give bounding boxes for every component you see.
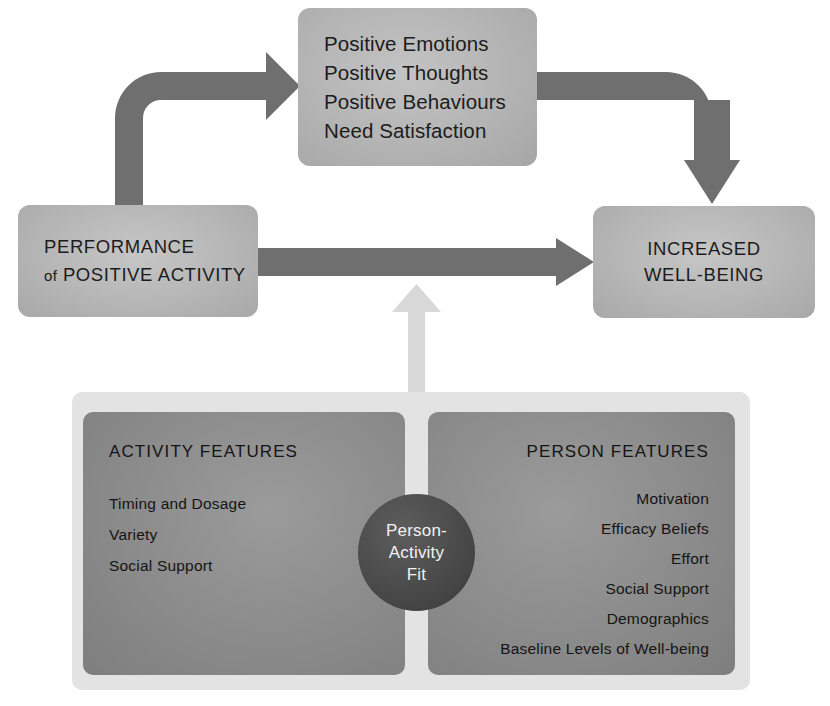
panel-activity-features: ACTIVITY FEATURES Timing and Dosage Vari…	[83, 412, 405, 675]
performance-line-1: PERFORMANCE	[44, 233, 195, 261]
positive-outcome-line: Positive Thoughts	[324, 58, 488, 87]
person-feature-item: Efficacy Beliefs	[454, 514, 709, 544]
arrow-fit-to-path-icon	[392, 284, 441, 400]
fit-line-3: Fit	[407, 564, 426, 586]
activity-feature-item: Timing and Dosage	[109, 488, 379, 519]
person-feature-item: Effort	[454, 544, 709, 574]
person-feature-item: Motivation	[454, 484, 709, 514]
activity-feature-item: Variety	[109, 519, 379, 550]
person-feature-item: Baseline Levels of Well-being	[454, 634, 709, 664]
panel-person-title: PERSON FEATURES	[454, 442, 709, 462]
node-person-activity-fit: Person- Activity Fit	[358, 494, 475, 611]
positive-outcome-line: Need Satisfaction	[324, 116, 486, 145]
performance-line-2-prefix: of	[44, 267, 57, 284]
activity-feature-item: Social Support	[109, 550, 379, 581]
panel-activity-title: ACTIVITY FEATURES	[109, 442, 379, 462]
node-performance: PERFORMANCE of POSITIVE ACTIVITY	[18, 205, 258, 317]
diagram-canvas: Positive Emotions Positive Thoughts Posi…	[0, 0, 830, 706]
node-increased-wellbeing: INCREASED WELL-BEING	[593, 206, 815, 318]
arrow-outcomes-to-wellbeing-head-icon	[684, 100, 740, 204]
arrow-outcomes-to-wellbeing-icon	[535, 72, 734, 203]
fit-line-1: Person-	[386, 520, 447, 542]
wellbeing-line-2: WELL-BEING	[644, 262, 764, 288]
performance-line-2: of POSITIVE ACTIVITY	[44, 261, 246, 290]
performance-line-2-main: POSITIVE ACTIVITY	[63, 264, 246, 285]
fit-line-2: Activity	[389, 542, 444, 564]
positive-outcome-line: Positive Emotions	[324, 29, 489, 58]
node-positive-outcomes: Positive Emotions Positive Thoughts Posi…	[298, 8, 537, 166]
arrow-performance-to-outcomes-icon	[115, 52, 300, 210]
person-feature-item: Social Support	[454, 574, 709, 604]
arrow-performance-to-wellbeing-icon	[243, 238, 594, 286]
person-feature-item: Demographics	[454, 604, 709, 634]
wellbeing-line-1: INCREASED	[647, 236, 760, 262]
positive-outcome-line: Positive Behaviours	[324, 87, 506, 116]
